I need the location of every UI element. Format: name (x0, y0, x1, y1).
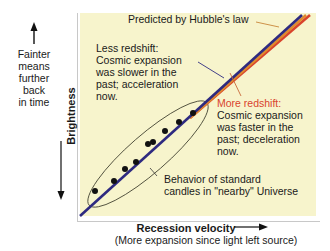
note-line: was faster in the (217, 121, 303, 133)
x-axis-sublabel: (More expansion since light left source) (86, 234, 326, 246)
fainter-note: Fainter means further back in time (8, 48, 60, 108)
note-line: Cosmic expansion (96, 54, 182, 66)
x-axis-label: Recession velocity (86, 222, 326, 234)
note-line: was slower in the (96, 66, 182, 78)
more-redshift-note: More redshift: Cosmic expansion was fast… (217, 97, 303, 157)
note-line: now. (217, 145, 303, 157)
note-line: past; acceleration (96, 78, 182, 90)
hubble-label: Predicted by Hubble's law (128, 13, 248, 25)
note-line: back (8, 84, 60, 96)
note-line: means (8, 60, 60, 72)
note-line: Cosmic expansion (217, 109, 303, 121)
note-line: Fainter (8, 48, 60, 60)
note-line: candles in "nearby" Universe (164, 185, 298, 197)
note-line: further (8, 72, 60, 84)
hubble-leader (256, 22, 279, 27)
less-redshift-title: Less redshift: (96, 42, 182, 54)
down-arrow-icon (58, 141, 65, 200)
note-line: past; deceleration (217, 133, 303, 145)
note-line: Behavior of standard (164, 173, 298, 185)
note-line: now. (96, 90, 182, 102)
up-arrow-icon (31, 22, 38, 44)
more-redshift-title: More redshift: (217, 97, 303, 109)
y-axis-label: Brightness (65, 71, 77, 161)
note-line: in time (8, 96, 60, 108)
less-leader (198, 62, 224, 78)
less-redshift-note: Less redshift: Cosmic expansion was slow… (96, 42, 182, 102)
candles-note: Behavior of standard candles in "nearby"… (164, 173, 298, 197)
